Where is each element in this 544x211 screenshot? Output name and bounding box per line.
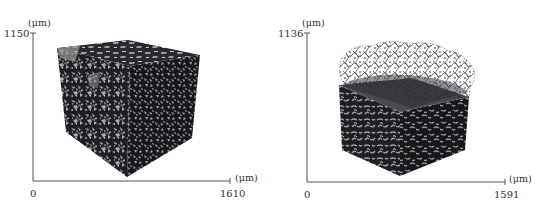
x-axis-unit-left: (μm) — [235, 172, 258, 183]
x-axis-origin-label-right: 0 — [304, 189, 310, 200]
panel-right: (μm) 1136 (μm) 0 1591 — [272, 0, 544, 211]
y-axis-max-label-left: 1150 — [4, 28, 29, 39]
x-axis-origin-label-left: 0 — [30, 188, 36, 199]
panel-left: (μm) 1150 (μm) 0 1610 — [0, 0, 272, 211]
cube-rendering-left — [0, 0, 272, 211]
cube-right-face — [127, 55, 200, 177]
cube-rendering-right — [272, 0, 544, 211]
y-axis-unit-left: (μm) — [28, 17, 51, 28]
y-axis-unit-right: (μm) — [302, 17, 325, 28]
x-axis-max-label-right: 1591 — [494, 189, 519, 200]
cube-left-face — [57, 48, 130, 177]
x-axis-unit-right: (μm) — [509, 173, 532, 184]
y-axis-max-label-right: 1136 — [278, 28, 303, 39]
x-axis-max-label-left: 1610 — [220, 188, 245, 199]
